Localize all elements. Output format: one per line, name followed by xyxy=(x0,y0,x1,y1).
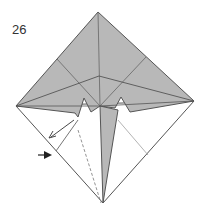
origami-diagram xyxy=(0,0,209,213)
